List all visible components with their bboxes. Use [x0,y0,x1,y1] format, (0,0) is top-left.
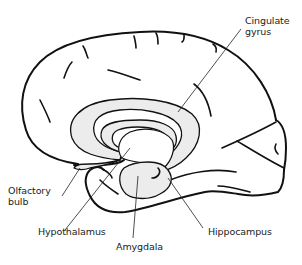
hippocampus-leader [168,178,203,228]
sulcus-8 [194,84,211,116]
sulcus-6 [64,62,72,78]
label-hypothalamus: Hypothalamus [38,226,106,237]
sulcus-4 [182,34,184,42]
amygdala-shape [120,162,172,199]
sulcus-2 [134,36,136,48]
olfactory-bulb-leader [62,168,80,196]
sulcus-11 [104,170,112,178]
cerebellum-division [237,141,284,168]
label-amygdala: Amygdala [116,241,163,252]
sulcus-1 [83,46,88,58]
sulcus-9 [40,100,50,122]
temporal-lower-outline [86,167,284,212]
label-hippocampus: Hippocampus [208,226,272,237]
occipital-outline [276,120,286,170]
label-olfactory-bulb: Olfactory bulb [8,185,51,207]
cerebellum-top [222,122,276,148]
sulcus-7 [108,70,140,80]
sulcus-5 [213,44,216,52]
temporal-sulcus-mid [170,170,236,180]
label-olfactory-bulb-line1: Olfactory [8,185,51,196]
sulcus-3 [156,33,158,44]
label-cingulate-gyrus-line2: gyrus [245,26,289,37]
hypothalamus-leader [65,148,130,230]
cerebellum-fold [275,144,278,154]
label-olfactory-bulb-line2: bulb [8,196,51,207]
label-cingulate-gyrus-line1: Cingulate [245,15,289,26]
label-cingulate-gyrus: Cingulate gyrus [245,15,289,37]
